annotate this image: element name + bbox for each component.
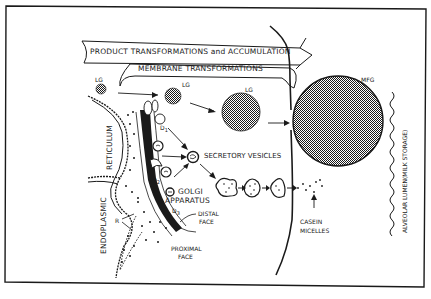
alveolar-lumen-label: ALVEOLAR LUMEN (402, 179, 408, 233)
distal-face-label-1: DISTAL (198, 211, 219, 217)
milk-storage-label: (MILK STORAGE) (402, 130, 408, 179)
d2-label: D2 (152, 177, 160, 185)
casein-vesicles (216, 178, 323, 208)
golgi-label: GOLGI (178, 188, 203, 196)
endoplasmic-label: ENDOPLASMIC (100, 197, 108, 254)
lipid-granule-large (222, 93, 260, 131)
product-transformations-label: PRODUCT TRANSFORMATIONS and ACCUMULATION (90, 48, 291, 56)
milk-secretion-diagram: PRODUCT TRANSFORMATIONS and ACCUMULATION… (0, 0, 431, 299)
reticulum-label: RETICULUM (106, 125, 114, 170)
lg-label-2: LG (182, 82, 190, 88)
apparatus-label: APPARATUS (165, 197, 210, 205)
lg-label-1: LG (95, 77, 103, 83)
d1-label: D1 (160, 125, 168, 133)
r-label: R (115, 218, 119, 224)
proximal-face-label-1: PROXIMAL (171, 246, 202, 252)
diagram-canvas (0, 0, 431, 299)
micelles-label: MICELLES (300, 228, 329, 234)
alveolar-lumen-boundary (390, 92, 394, 236)
mfg-label: MFG (361, 77, 374, 83)
proximal-face-label-2: FACE (178, 254, 193, 260)
casein-label: CASEIN (300, 219, 322, 225)
lipid-granule-medium (165, 88, 181, 104)
secretory-vesicles-label: SECRETORY VESICLES (204, 153, 281, 160)
leader-lines (122, 214, 196, 232)
milk-fat-globule (293, 76, 383, 166)
membrane-transformations-label: MEMBRANE TRANSFORMATIONS (138, 65, 263, 73)
lg-label-3: LG (245, 87, 253, 93)
d3-label: D3 (172, 208, 180, 216)
distal-face-label-2: FACE (199, 219, 214, 225)
lipid-granule-small (96, 84, 106, 94)
